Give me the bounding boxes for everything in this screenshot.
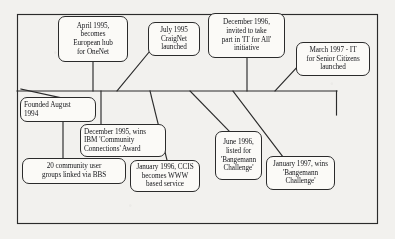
event-line: December 1995, wins (84, 128, 162, 137)
event-line: based service (134, 180, 196, 189)
event-line: Challenge' (219, 164, 258, 173)
event-line: IBM 'Community (84, 136, 162, 145)
event-line: for OneNet (62, 48, 124, 57)
event-line: July 1995 (152, 26, 196, 35)
event-line: June 1996, (219, 138, 258, 147)
event-line: 'Bangemann (219, 156, 258, 165)
event-line: launched (300, 63, 366, 72)
event-box-founded-1994: Founded August 1994 (20, 97, 96, 122)
event-box-april-1995-onenet: April 1995, becomes European hub for One… (58, 16, 128, 62)
event-line: Founded August (24, 101, 92, 110)
event-box-january-1996-ccis-www: January 1996, CCIS becomes WWW based ser… (130, 160, 200, 192)
event-line: for Senior Citizens (300, 55, 366, 64)
event-line: invited to take (212, 27, 281, 36)
event-line: January 1996, CCIS (134, 163, 196, 172)
event-line: March 1997 - IT (300, 46, 366, 55)
event-box-december-1995-ibm-award: December 1995, wins IBM 'Community Conne… (80, 124, 166, 157)
event-box-december-1996-it-for-all: December 1996, invited to take part in '… (208, 13, 285, 58)
event-line: listed for (219, 147, 258, 156)
event-line: 1994 (24, 110, 92, 119)
event-line: becomes (62, 30, 124, 39)
event-box-twenty-community-user-groups: 20 community user groups linked via BBS (22, 158, 126, 184)
event-line: becomes WWW (134, 172, 196, 181)
event-line: January 1997, wins (270, 160, 331, 169)
event-line: initiative (212, 44, 281, 53)
event-line: December 1996, (212, 18, 281, 27)
timeline-diagram: April 1995, becomes European hub for One… (0, 0, 395, 239)
event-line: CraigNet (152, 35, 196, 44)
connector-june-1996 (190, 91, 229, 131)
event-box-june-1996-bangemann-listed: June 1996, listed for 'Bangemann Challen… (215, 131, 262, 180)
event-line: April 1995, (62, 22, 124, 31)
event-box-january-1997-bangemann-wins: January 1997, wins 'Bangemann Challenge' (266, 156, 335, 190)
event-line: 20 community user (26, 162, 122, 171)
event-line: European hub (62, 39, 124, 48)
event-line: Connections' Award (84, 145, 162, 154)
event-line: groups linked via BBS (26, 171, 122, 180)
event-box-july-1995-craignet: July 1995 CraigNet launched (148, 22, 200, 56)
event-line: Challenge' (270, 177, 331, 186)
event-line: part in 'IT for All' (212, 36, 281, 45)
event-line: launched (152, 43, 196, 52)
event-line: 'Bangemann (270, 169, 331, 178)
event-box-march-1997-it-senior-citizens: March 1997 - IT for Senior Citizens laun… (296, 42, 370, 76)
